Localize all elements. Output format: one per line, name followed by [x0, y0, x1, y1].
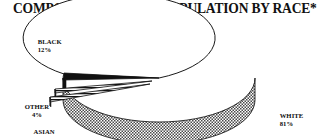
- slice-label-white: WHITE 81%: [280, 112, 304, 129]
- slice-label-black-name: BLACK: [38, 38, 62, 46]
- slice-label-other-name: OTHER: [25, 103, 50, 111]
- slice-label-black: BLACK 12%: [38, 38, 62, 55]
- slice-label-white-pct: 81%: [280, 120, 304, 128]
- slice-label-white-name: WHITE: [280, 112, 304, 120]
- slice-label-other-pct: 4%: [25, 111, 50, 119]
- slice-label-asian-name: ASIAN: [34, 128, 55, 136]
- slice-label-other: OTHER 4%: [25, 103, 50, 120]
- slice-label-black-pct: 12%: [38, 46, 62, 54]
- slice-label-asian: ASIAN: [34, 128, 55, 136]
- pie-chart-figure: COMPOSITION OF U.S. POPULATION BY RACE*: [0, 0, 318, 140]
